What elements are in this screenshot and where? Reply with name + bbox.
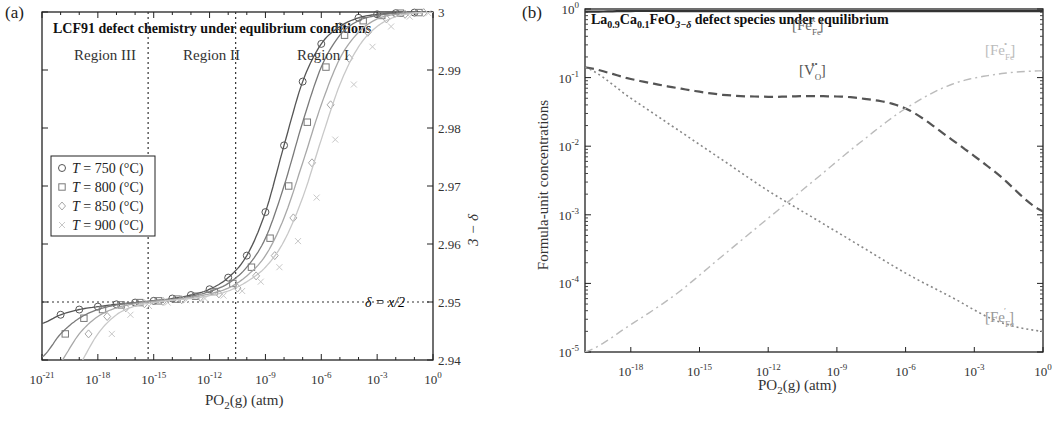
tick-label: 10-1 bbox=[559, 69, 580, 86]
data-point-cross bbox=[388, 24, 394, 30]
species-label-fe_fe_dot: [FeFe•] bbox=[985, 39, 1015, 62]
tick-label: 10-5 bbox=[559, 343, 580, 360]
data-point-cross bbox=[146, 303, 152, 309]
tick-label: 100 bbox=[424, 370, 442, 387]
y-tick-label: 2.94 bbox=[438, 353, 461, 368]
species-label-fe_fe_x: [FeFex] bbox=[792, 14, 824, 37]
data-point-cross bbox=[127, 312, 133, 318]
data-point-cross bbox=[295, 238, 301, 244]
data-point-square bbox=[267, 235, 273, 241]
tick-label: 10-6 bbox=[895, 362, 916, 379]
series-line-dashed bbox=[585, 67, 1043, 211]
data-point-cross bbox=[407, 14, 413, 20]
data-point-diamond bbox=[85, 330, 92, 338]
y-tick-label: 2.97 bbox=[438, 179, 461, 194]
tick-label: 10-2 bbox=[559, 137, 580, 154]
species-label-v_o: [VO••] bbox=[799, 59, 826, 82]
data-point-cross bbox=[258, 279, 264, 285]
y-tick-label: 2.99 bbox=[438, 63, 461, 78]
data-point-cross bbox=[239, 288, 245, 294]
panel-b-label: (b) bbox=[522, 3, 542, 22]
tick-label: 10-18 bbox=[618, 362, 643, 379]
panel-b-title: La0.9Ca0.1FeO3−δ defect species under eq… bbox=[591, 12, 889, 30]
tick-label: 10-3 bbox=[559, 206, 580, 223]
data-point-square bbox=[286, 183, 292, 189]
tick-label: 10-9 bbox=[255, 370, 276, 387]
series-line-dotted bbox=[585, 67, 1043, 331]
tick-label: 10-12 bbox=[197, 370, 222, 387]
panel-a-title: LCF91 defect chemistry under equlibrium … bbox=[53, 21, 372, 36]
panel-b: (b) La0.9Ca0.1FeO3−δ defect species unde… bbox=[522, 0, 1052, 396]
panel-a-label: (a) bbox=[5, 3, 24, 22]
data-point-diamond bbox=[104, 313, 111, 321]
tick-label: 100 bbox=[1034, 362, 1052, 379]
legend-item: T = 750 (°C) bbox=[72, 161, 144, 177]
data-point-cross bbox=[369, 44, 375, 50]
data-point-square bbox=[304, 119, 310, 125]
tick-label: 10-3 bbox=[964, 362, 985, 379]
panel-b-y-axis-label: Formula-unit concentrations bbox=[535, 100, 551, 271]
tick-label: 100 bbox=[562, 0, 580, 17]
figure: (a) LCF91 defect chemistry under equlibr… bbox=[0, 0, 1058, 425]
y-tick-label: 2.98 bbox=[438, 121, 461, 136]
data-point-cross bbox=[351, 82, 357, 88]
legend-item: T = 800 (°C) bbox=[72, 180, 144, 196]
y-tick-label: 2.95 bbox=[438, 295, 461, 310]
legend-item: T = 850 (°C) bbox=[72, 199, 144, 215]
data-point-cross bbox=[332, 137, 338, 143]
panel-a-y-axis-label: 3 − δ bbox=[465, 213, 481, 247]
panel-a: (a) LCF91 defect chemistry under equlibr… bbox=[5, 3, 481, 418]
panel-a-x-axis-label: PO2(g) (atm) bbox=[205, 392, 283, 411]
series-line-dashdot bbox=[585, 71, 1043, 352]
tick-label: 10-21 bbox=[30, 370, 55, 387]
tick-label: 10-15 bbox=[687, 362, 712, 379]
y-tick-label: 3 bbox=[438, 5, 445, 20]
tick-label: 10-15 bbox=[141, 370, 166, 387]
y-tick-label: 2.96 bbox=[438, 237, 461, 252]
species-label-fe_fe_prime: [FeFe′] bbox=[985, 306, 1014, 329]
region-iii-label: Region III bbox=[74, 47, 136, 63]
legend-item: T = 900 (°C) bbox=[72, 218, 144, 234]
region-ii-label: Region II bbox=[183, 47, 240, 63]
panel-b-x-axis-label: PO2(g) (atm) bbox=[758, 377, 836, 396]
tick-label: 10-3 bbox=[367, 370, 388, 387]
tick-label: 10-6 bbox=[311, 370, 332, 387]
series-line-solid bbox=[585, 11, 1043, 12]
data-point-cross bbox=[314, 195, 320, 201]
data-point-cross bbox=[109, 331, 115, 337]
legend: T = 750 (°C)T = 800 (°C)T = 850 (°C)T = … bbox=[51, 156, 155, 236]
region-i-label: Region I bbox=[297, 47, 349, 63]
panel-b-plot-area: 10-510-410-310-210-110010-1810-1510-1210… bbox=[559, 0, 1053, 379]
delta-annotation: δ = x/2 bbox=[365, 295, 405, 310]
data-point-cross bbox=[276, 264, 282, 270]
tick-label: 10-4 bbox=[559, 274, 580, 291]
data-point-square bbox=[323, 64, 329, 70]
tick-label: 10-18 bbox=[85, 370, 110, 387]
